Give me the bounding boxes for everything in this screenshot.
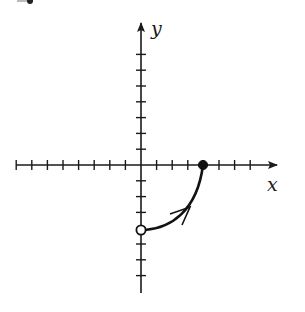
curve bbox=[145, 165, 203, 230]
end-point-filled-circle bbox=[198, 160, 207, 169]
coordinate-plane-diagram: y x bbox=[0, 0, 305, 312]
y-axis-label: y bbox=[150, 17, 162, 39]
start-point-open-circle bbox=[136, 225, 145, 234]
x-axis-label: x bbox=[267, 173, 278, 195]
